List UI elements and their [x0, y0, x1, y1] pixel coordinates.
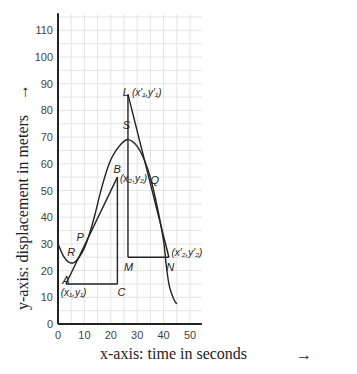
x-tick-label: 10: [78, 329, 90, 341]
label-B-coord: (x₂,y₂): [120, 173, 147, 184]
x-tick-label: 20: [105, 329, 117, 341]
label-L-coord: (x'₁,y'₁): [132, 87, 162, 98]
x-tick-label: 40: [157, 329, 169, 341]
label-A-coord: (x₁,y₁): [61, 287, 87, 298]
y-tick-label: 10: [41, 291, 53, 303]
x-tick-label: 0: [55, 329, 61, 341]
label-S: S: [123, 119, 131, 131]
y-axis-label: y-axis: displacement in meters: [14, 115, 32, 310]
x-tick-label: 30: [131, 329, 143, 341]
label-C: C: [117, 286, 125, 298]
x-axis-arrow-icon: →: [296, 346, 312, 363]
label-N-coord: (x'₂,y'₂): [172, 247, 203, 258]
label-A: A: [61, 274, 69, 286]
label-L: L: [123, 86, 129, 98]
y-tick-label: 110: [35, 24, 53, 36]
axes: [58, 13, 202, 324]
annotations: A(x₁,y₁)B(x₂,y₂)CPRSL(x'₁,y'₁)MN(x'₂,y'₂…: [61, 86, 203, 298]
y-tick-label: 80: [41, 104, 53, 116]
y-tick-label: 40: [41, 211, 53, 223]
label-N: N: [166, 261, 174, 273]
y-tick-label: 50: [41, 185, 53, 197]
y-tick-label: 30: [41, 238, 53, 250]
y-tick-label: 20: [41, 265, 53, 277]
label-Q: Q: [150, 174, 159, 186]
y-axis-arrow-icon: →: [14, 84, 31, 100]
y-tick-label: 0: [47, 318, 53, 330]
label-M: M: [124, 261, 134, 273]
marks: [58, 94, 177, 304]
y-tick-label: 70: [41, 131, 53, 143]
x-tick-label: 50: [184, 329, 196, 341]
x-axis-label: x-axis: time in seconds: [100, 345, 247, 362]
label-R: R: [67, 246, 75, 258]
grid: [58, 14, 202, 324]
chart: 010203040500102030405060708090100110 A(x…: [0, 0, 357, 374]
y-tick-label: 90: [41, 78, 53, 90]
y-tick-label: 100: [35, 51, 53, 63]
y-tick-label: 60: [41, 158, 53, 170]
label-P: P: [76, 231, 84, 243]
